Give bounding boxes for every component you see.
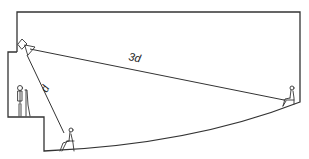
near-listener-figure — [60, 128, 74, 151]
presenter-figure — [18, 86, 31, 117]
near-distance-label: d — [38, 82, 52, 94]
room-outline — [8, 12, 300, 151]
far-listener-figure — [283, 86, 294, 106]
far-distance-line — [30, 49, 284, 100]
auditorium-diagram: 3d d — [0, 0, 309, 159]
near-distance-line — [27, 55, 64, 133]
far-distance-label: 3d — [128, 50, 143, 64]
loudspeaker-icon — [18, 39, 35, 55]
